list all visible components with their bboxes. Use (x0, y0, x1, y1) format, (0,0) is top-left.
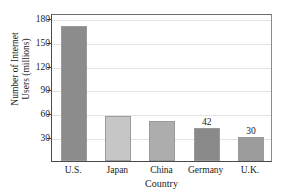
y-axis-tick-label: 180 (22, 14, 50, 24)
y-axis-tick-label: 90 (22, 85, 50, 95)
bar-slot (52, 15, 96, 161)
bar[interactable] (61, 26, 87, 161)
x-axis-tick-label: Germany (188, 164, 223, 176)
plot-area: 4230 (51, 14, 272, 162)
y-axis-tick-label: 150 (22, 38, 50, 48)
bar-value-label: 30 (246, 126, 256, 136)
bar[interactable] (105, 116, 131, 161)
y-axis-tick-mark (47, 43, 51, 44)
y-axis-tick-mark (47, 90, 51, 91)
bar[interactable] (149, 121, 175, 161)
y-axis-tick-label: 120 (22, 62, 50, 72)
bar-chart-figure: Number of Internet Users (millions) 3060… (0, 0, 282, 196)
bar-slot: 30 (229, 15, 273, 161)
y-axis-tick-mark (47, 19, 51, 20)
x-axis-tick-label: Japan (106, 164, 128, 176)
y-axis-tick-mark (47, 67, 51, 68)
y-axis-tick-mark (47, 138, 51, 139)
x-axis-title: Country (51, 178, 272, 190)
y-axis-tick-label: 30 (22, 133, 50, 143)
y-axis-title-line1: Number of Internet (10, 32, 21, 105)
bar-slot: 42 (185, 15, 229, 161)
x-axis-tick-label: U.S. (65, 164, 82, 176)
bars-layer: 4230 (52, 15, 271, 161)
bar-slot (140, 15, 184, 161)
x-axis-tick-labels: U.S.JapanChinaGermanyU.K. (51, 164, 272, 178)
x-axis-tick-label: China (150, 164, 173, 176)
bar-value-label: 42 (202, 117, 212, 127)
y-axis-tick-labels: 306090120150180 (22, 0, 50, 196)
bar-slot (96, 15, 140, 161)
bar[interactable] (238, 137, 264, 161)
y-axis-tick-label: 60 (22, 109, 50, 119)
bar[interactable] (194, 128, 220, 161)
y-axis-tick-mark (47, 114, 51, 115)
x-axis-tick-label: U.K. (241, 164, 259, 176)
